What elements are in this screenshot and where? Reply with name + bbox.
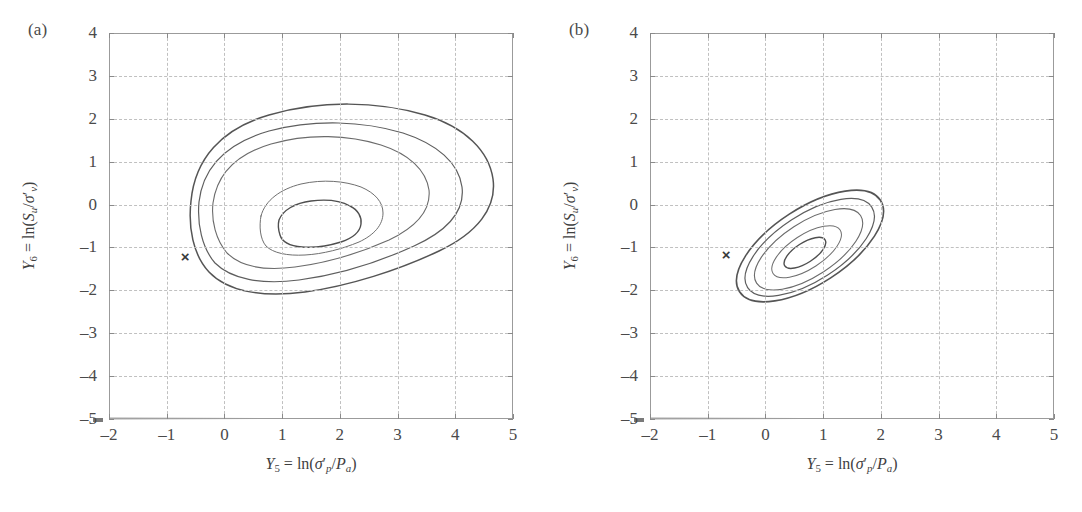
gridline-vertical: [455, 33, 456, 419]
y-axis-tick-label: 0: [630, 195, 639, 215]
y-axis-tick: [508, 33, 513, 34]
y-axis-tick: [650, 205, 655, 206]
y-axis-tick: [109, 33, 114, 34]
contour-level-1: [190, 104, 493, 294]
y-axis-tick-label: 4: [89, 23, 98, 43]
x-axis-tick-label: 5: [1050, 425, 1059, 445]
x-axis-tick: [939, 414, 940, 419]
gridline-horizontal: [650, 247, 1054, 248]
x-axis-tick-label: 5: [509, 425, 518, 445]
panel-a-yaxis-title: Y6 = ln(Su/σ′v): [20, 182, 39, 271]
panel-b-contours: [650, 33, 1054, 419]
gridline-vertical: [282, 33, 283, 419]
y-axis-tick-label: –3: [621, 323, 638, 343]
panel-a-contour-svg: [109, 33, 513, 419]
x-axis-tick: [167, 414, 168, 419]
y-axis-tick: [1049, 290, 1054, 291]
x-axis-tick-label: 3: [393, 425, 402, 445]
gridline-horizontal: [650, 162, 1054, 163]
panel-a-xaxis-title: Y5 = ln(σ′p/Pa): [109, 455, 513, 474]
x-axis-tick: [881, 33, 882, 38]
x-axis-tick: [398, 33, 399, 38]
y-axis-tick: [650, 290, 655, 291]
y-axis-tick: [650, 333, 655, 334]
gridline-vertical: [996, 33, 997, 419]
gridline-vertical: [167, 33, 168, 419]
gridline-horizontal: [109, 333, 513, 334]
gridline-vertical: [881, 33, 882, 419]
x-axis-tick: [881, 414, 882, 419]
x-axis-tick-label: 1: [819, 425, 828, 445]
x-axis-tick: [513, 33, 514, 38]
y-axis-tick: [1049, 205, 1054, 206]
y-axis-tick: [508, 419, 513, 420]
gridline-vertical: [224, 33, 225, 419]
panel-b-plot-area: × –2–101234543210–1–2–3–4–5: [650, 33, 1054, 419]
y-axis-tick-label: –1: [80, 237, 97, 257]
gridline-vertical: [708, 33, 709, 419]
panel-a-mode-marker: ×: [181, 248, 190, 265]
x-axis-tick: [224, 414, 225, 419]
x-axis-tick: [167, 33, 168, 38]
y-axis-tick: [1049, 33, 1054, 34]
y-axis-tick-label: 2: [89, 109, 98, 129]
gridline-horizontal: [109, 376, 513, 377]
y-axis-tick: [1049, 247, 1054, 248]
y-axis-tick-label: –5: [80, 409, 97, 429]
y-axis-tick-label: 0: [89, 195, 98, 215]
panel-a-contours: [109, 33, 513, 419]
x-axis-tick-label: –2: [642, 425, 659, 445]
x-axis-tick: [340, 414, 341, 419]
panel-b-label: (b): [569, 20, 589, 40]
y-axis-tick: [650, 33, 655, 34]
y-axis-tick: [508, 119, 513, 120]
gridline-horizontal: [650, 333, 1054, 334]
contour-level-5: [278, 200, 361, 247]
gridline-horizontal: [109, 205, 513, 206]
x-axis-tick: [996, 414, 997, 419]
x-axis-tick: [1054, 33, 1055, 38]
panel-a-label: (a): [28, 20, 47, 40]
panel-b: (b) × –2–: [541, 0, 1082, 512]
y-axis-tick: [109, 247, 114, 248]
y-axis-tick: [1049, 162, 1054, 163]
y-axis-tick: [109, 419, 114, 420]
panel-b-xaxis-title: Y5 = ln(σ′p/Pa): [650, 455, 1054, 474]
x-axis-tick: [455, 33, 456, 38]
panel-b-edge-smudge: [650, 417, 800, 420]
gridline-horizontal: [650, 205, 1054, 206]
y-axis-tick: [109, 119, 114, 120]
y-axis-tick-label: 4: [630, 23, 639, 43]
x-axis-tick: [765, 414, 766, 419]
y-axis-tick: [508, 290, 513, 291]
y-axis-tick-label: –4: [621, 366, 638, 386]
y-axis-tick: [508, 247, 513, 248]
y-axis-tick: [508, 76, 513, 77]
x-axis-tick-label: 2: [336, 425, 345, 445]
y-axis-tick: [109, 76, 114, 77]
x-axis-tick: [765, 33, 766, 38]
y-axis-tick-label: –2: [621, 280, 638, 300]
gridline-vertical: [939, 33, 940, 419]
panel-a-edge-smudge: [109, 417, 259, 420]
y-axis-tick-label: 3: [89, 66, 98, 86]
contour-level-4: [764, 216, 850, 288]
x-axis-tick-label: 2: [877, 425, 886, 445]
y-axis-tick: [109, 333, 114, 334]
x-axis-tick: [282, 33, 283, 38]
figure-contour-pair: (a) × –2–101234543210–1–2–3–4–5 Y5: [0, 0, 1082, 512]
x-axis-tick-label: –1: [158, 425, 175, 445]
y-axis-tick: [650, 247, 655, 248]
gridline-horizontal: [109, 247, 513, 248]
x-axis-tick: [708, 33, 709, 38]
x-axis-tick-label: 4: [992, 425, 1001, 445]
y-axis-tick-label: 1: [89, 152, 98, 172]
y-axis-tick: [650, 376, 655, 377]
x-axis-tick: [340, 33, 341, 38]
x-axis-tick: [455, 414, 456, 419]
y-axis-tick: [650, 162, 655, 163]
y-axis-tick: [650, 119, 655, 120]
y-axis-tick-label: 3: [630, 66, 639, 86]
gridline-horizontal: [650, 290, 1054, 291]
gridline-horizontal: [109, 76, 513, 77]
